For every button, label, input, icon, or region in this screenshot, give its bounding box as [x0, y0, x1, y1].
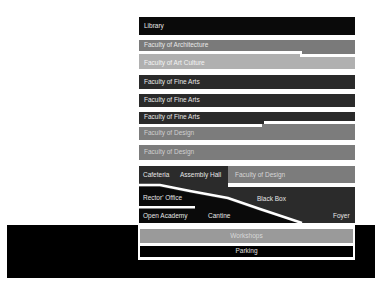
- floor-faculty-of-architecture[interactable]: Faculty of Architecture: [139, 40, 355, 51]
- room-open-academy[interactable]: Open Academy: [143, 213, 187, 220]
- room-assembly-hall[interactable]: Assembly Hall: [180, 172, 221, 179]
- floor-faculty-of-fine-arts-2[interactable]: Faculty of Fine Arts: [139, 94, 355, 107]
- floor-label: Faculty of Art Culture: [144, 60, 205, 67]
- room-black-box[interactable]: Black Box: [257, 196, 286, 203]
- room-faculty-of-design[interactable]: Faculty of Design: [235, 172, 285, 179]
- room-rectors-office[interactable]: Rector' Office: [143, 195, 182, 202]
- floor-faculty-of-design-1[interactable]: Faculty of Design: [139, 127, 355, 140]
- floor-label: Faculty of Design: [144, 130, 194, 137]
- floor-label: Parking: [235, 248, 257, 255]
- floor-label: Faculty of Architecture: [144, 42, 208, 49]
- floor-label: Faculty of Design: [144, 149, 194, 156]
- floor-faculty-of-fine-arts-3[interactable]: Faculty of Fine Arts: [139, 112, 355, 123]
- floor-label: Workshops: [230, 233, 262, 240]
- floor-label: Faculty of Fine Arts: [144, 79, 200, 86]
- room-cafeteria[interactable]: Cafeteria: [143, 172, 169, 179]
- floor-library[interactable]: Library: [139, 17, 355, 35]
- floor-workshops[interactable]: Workshops: [140, 229, 353, 243]
- floor-label: Faculty of Fine Arts: [144, 97, 200, 104]
- room-foyer[interactable]: Foyer: [333, 213, 350, 220]
- floor-faculty-of-art-culture[interactable]: Faculty of Art Culture: [139, 57, 355, 69]
- floor-faculty-of-design-2[interactable]: Faculty of Design: [139, 145, 355, 160]
- floor-label: Faculty of Fine Arts: [144, 114, 200, 121]
- floor-parking[interactable]: Parking: [140, 246, 353, 257]
- floor-label: Library: [144, 23, 164, 30]
- room-cantine[interactable]: Cantine: [208, 213, 230, 220]
- floor-faculty-of-fine-arts-1[interactable]: Faculty of Fine Arts: [139, 75, 355, 89]
